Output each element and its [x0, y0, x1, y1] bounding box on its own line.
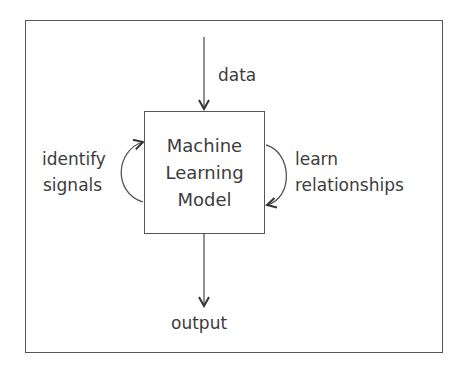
left-loop-label-1: identify: [42, 149, 106, 169]
ml-model-box: Machine Learning Model: [144, 111, 265, 234]
output-label: output: [171, 313, 227, 333]
left-loop-arrow-icon: [121, 142, 143, 202]
right-loop-label-2: relationships: [295, 175, 404, 195]
input-label: data: [218, 65, 256, 85]
model-line-3: Model: [177, 186, 231, 213]
model-line-2: Learning: [165, 159, 243, 186]
left-loop-label-2: signals: [43, 175, 102, 195]
right-loop-arrow-icon: [266, 145, 286, 205]
right-loop-label-1: learn: [295, 149, 338, 169]
model-line-1: Machine: [167, 132, 242, 159]
